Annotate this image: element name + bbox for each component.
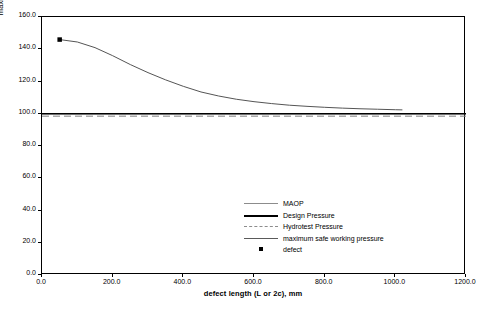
y-tick-label: 80.0: [0, 140, 36, 147]
legend-label-defect: defect: [283, 244, 302, 256]
x-tick-mark: [465, 274, 466, 277]
legend-key-mswp: [244, 234, 278, 243]
y-tick-label: 0.0: [0, 269, 36, 276]
y-tick-label: 100.0: [0, 108, 36, 115]
chart-container: maximum safe working pressure, bar MAOP …: [0, 0, 492, 318]
x-axis-label: defect length (L or 2c), mm: [41, 289, 465, 298]
x-tick-mark: [324, 274, 325, 277]
y-tick-mark: [38, 16, 41, 17]
legend-key-hydrotest-pressure: [244, 222, 278, 231]
legend-item-defect: defect: [244, 244, 394, 256]
legend-label-hydrotest-pressure: Hydrotest Pressure: [283, 221, 343, 233]
legend-item-maop: MAOP: [244, 198, 394, 210]
plot-area: MAOP Design Pressure Hydrotest Pressure …: [41, 16, 465, 274]
y-tick-mark: [38, 177, 41, 178]
x-tick-mark: [112, 274, 113, 277]
y-tick-label: 120.0: [0, 76, 36, 83]
legend-label-maop: MAOP: [283, 198, 304, 210]
legend: MAOP Design Pressure Hydrotest Pressure …: [244, 198, 394, 256]
y-tick-mark: [38, 242, 41, 243]
legend-item-hydrotest-pressure: Hydrotest Pressure: [244, 221, 394, 233]
legend-key-defect: [244, 245, 278, 254]
x-tick-mark: [41, 274, 42, 277]
x-tick-label: 0.0: [21, 278, 61, 285]
y-tick-mark: [38, 81, 41, 82]
y-tick-mark: [38, 210, 41, 211]
y-tick-label: 160.0: [0, 11, 36, 18]
series-curve-max-safe-working-pressure: [60, 40, 403, 110]
legend-item-mswp: maximum safe working pressure: [244, 233, 394, 245]
x-tick-mark: [182, 274, 183, 277]
y-tick-label: 20.0: [0, 237, 36, 244]
defect-square-icon: [259, 247, 263, 251]
legend-key-maop: [244, 199, 278, 208]
x-tick-label: 1200.0: [445, 278, 485, 285]
y-tick-mark: [38, 145, 41, 146]
legend-key-design-pressure: [244, 211, 278, 220]
legend-label-design-pressure: Design Pressure: [283, 210, 335, 222]
x-tick-mark: [394, 274, 395, 277]
legend-label-mswp: maximum safe working pressure: [283, 233, 384, 245]
defect-data-point: [57, 37, 62, 42]
y-tick-mark: [38, 113, 41, 114]
x-tick-mark: [253, 274, 254, 277]
x-tick-label: 400.0: [162, 278, 202, 285]
y-tick-label: 140.0: [0, 43, 36, 50]
y-tick-mark: [38, 48, 41, 49]
y-tick-label: 40.0: [0, 205, 36, 212]
y-tick-label: 60.0: [0, 172, 36, 179]
x-tick-label: 200.0: [92, 278, 132, 285]
x-tick-label: 800.0: [304, 278, 344, 285]
x-tick-label: 600.0: [233, 278, 273, 285]
legend-item-design-pressure: Design Pressure: [244, 210, 394, 222]
x-tick-label: 1000.0: [374, 278, 414, 285]
